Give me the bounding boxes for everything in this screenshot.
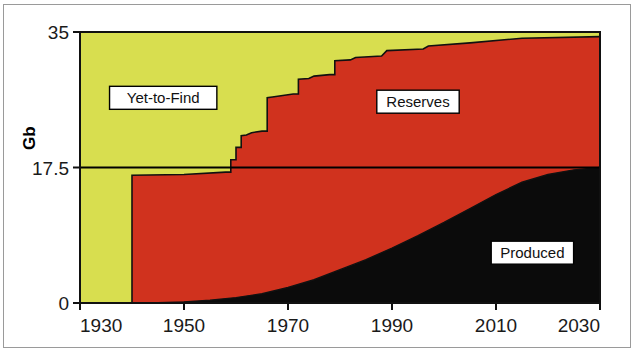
x-tick-label: 1930 (80, 315, 122, 336)
x-tick-label: 1950 (163, 315, 205, 336)
x-tick-label: 1990 (371, 315, 413, 336)
series-label-produced: Produced (491, 241, 573, 264)
chart-figure: Gb 193019501970199020102030 017.535 Yet-… (0, 0, 635, 350)
label-text: Yet-to-Find (127, 89, 200, 106)
label-text: Produced (500, 244, 564, 261)
series-label-reserves: Reserves (377, 90, 459, 113)
x-tick-label: 2030 (558, 315, 600, 336)
y-tick-label: 17.5 (32, 158, 69, 179)
plot-area: 193019501970199020102030 017.535 Yet-to-… (0, 0, 635, 350)
label-text: Reserves (386, 93, 449, 110)
y-axis-ticks: 017.535 (32, 22, 80, 314)
x-tick-label: 1970 (267, 315, 309, 336)
y-tick-label: 35 (48, 22, 69, 43)
x-tick-label: 2010 (475, 315, 517, 336)
series-label-yet-to-find: Yet-to-Find (110, 86, 217, 109)
y-tick-label: 0 (58, 293, 69, 314)
x-axis-ticks: 193019501970199020102030 (80, 303, 600, 336)
area-chart-svg: 193019501970199020102030 017.535 Yet-to-… (0, 0, 635, 350)
